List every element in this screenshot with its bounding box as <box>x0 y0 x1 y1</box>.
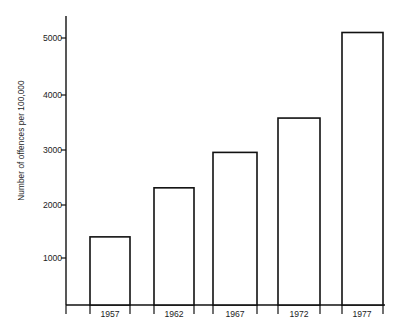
plot-area <box>0 0 394 329</box>
x-tick-label-1972: 1972 <box>275 309 323 319</box>
bar-1967 <box>213 152 257 305</box>
bar-1977 <box>342 33 383 306</box>
bar-1972 <box>278 118 320 305</box>
y-axis-tick-marks <box>61 38 66 258</box>
bar-chart: Number of offences per 100,000 1000 2000… <box>0 0 394 329</box>
x-tick-label-1967: 1967 <box>211 309 259 319</box>
x-tick-label-1957: 1957 <box>86 309 134 319</box>
x-tick-label-1962: 1962 <box>150 309 198 319</box>
bars-group <box>90 33 383 306</box>
x-tick-label-1977: 1977 <box>338 309 386 319</box>
bar-1962 <box>154 188 194 305</box>
bar-1957 <box>90 237 130 305</box>
